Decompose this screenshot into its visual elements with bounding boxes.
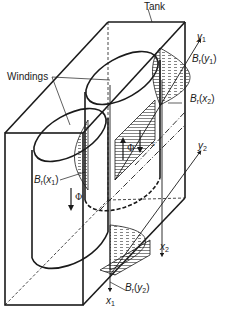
windings-label: Windings — [7, 72, 48, 82]
axis-x2-label: x2 — [160, 242, 169, 253]
phi-down-label: Φ — [75, 193, 82, 202]
phi-up-label: Φ — [127, 144, 134, 153]
axis-y1-label: y1 — [197, 32, 206, 43]
br-y1-label: Br(y1) — [192, 54, 217, 65]
br-x2-label: Br(x2) — [190, 94, 215, 105]
br-y2-label: Br(y2) — [125, 283, 150, 294]
transformer-diagram — [0, 0, 232, 311]
flux-distribution-x2 — [115, 100, 155, 180]
tank-label: Tank — [144, 2, 165, 12]
s-label: s — [151, 140, 155, 148]
flux-distribution-x1 — [75, 120, 89, 190]
axis-y2-label: y2 — [198, 141, 207, 152]
br-x1-label: Br(x1) — [34, 175, 59, 186]
axis-x1-label: x1 — [106, 296, 115, 307]
